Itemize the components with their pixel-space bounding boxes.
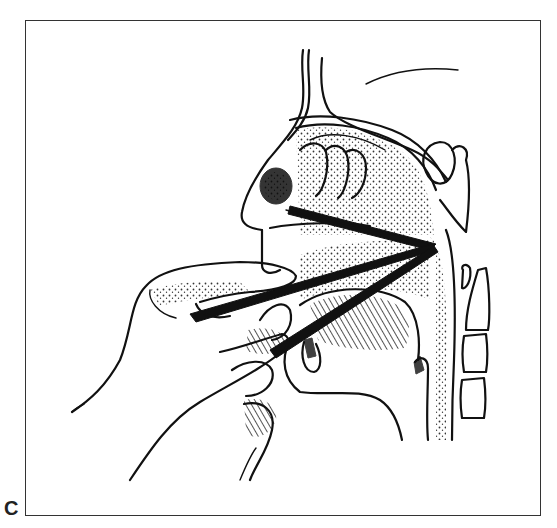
pharyngeal-wall (430, 230, 455, 440)
nasopharyngeal-mass (260, 168, 292, 204)
lower-hand (130, 305, 291, 480)
medical-illustration (0, 0, 557, 528)
cervical-vertebrae (461, 265, 490, 418)
wrist-stroke (72, 404, 84, 412)
epiglottis (414, 356, 428, 440)
